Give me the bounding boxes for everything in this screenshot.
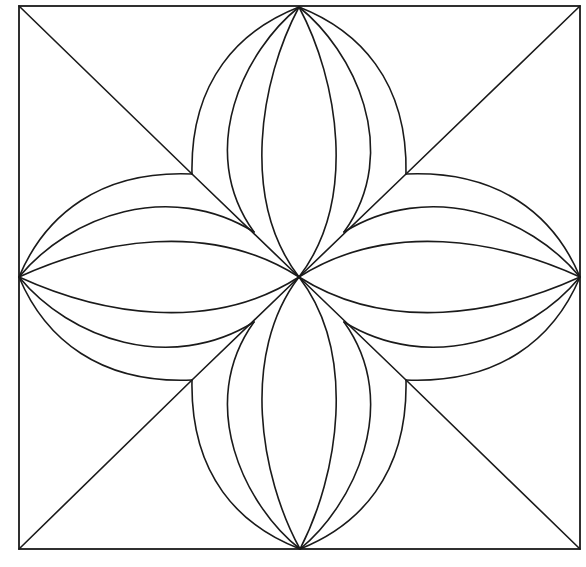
petal-top-inner-arc-right (299, 7, 336, 277)
petal-bottom-inner-arc-right (299, 277, 336, 549)
petal-bottom-outer-arc-left (192, 380, 300, 549)
petal-left-outer-arc-upper (19, 174, 192, 277)
petal-right-inner-arc-upper (299, 241, 580, 277)
petal-top-outer-arc-right (299, 7, 406, 174)
petal-left (19, 174, 299, 380)
diagonal-top-right (299, 6, 580, 277)
petal-right (299, 174, 580, 380)
petal-right-middle-arc-upper (344, 207, 580, 277)
rosette-svg (0, 0, 586, 567)
diagonal-bottom-right (299, 277, 580, 549)
diagonal-top-left (19, 6, 299, 277)
petal-bottom-middle-arc-right (300, 322, 371, 549)
petal-right-outer-arc-lower (406, 277, 580, 380)
petal-left-middle-arc-upper (19, 207, 254, 277)
petal-top-middle-arc-left (227, 7, 299, 232)
petal-top-middle-arc-right (299, 7, 371, 232)
petal-left-inner-arc-upper (19, 241, 299, 277)
petal-top-outer-arc-left (192, 7, 299, 174)
petal-top-inner-arc-left (262, 7, 299, 277)
petal-bottom-outer-arc-right (300, 380, 406, 549)
petal-left-middle-arc-lower (19, 277, 254, 347)
petal-right-inner-arc-lower (299, 277, 580, 313)
quilt-block-diagram (0, 0, 586, 567)
petal-top (192, 7, 406, 277)
petal-right-middle-arc-lower (344, 277, 580, 347)
petal-right-outer-arc-upper (406, 174, 580, 277)
petal-left-inner-arc-lower (19, 277, 299, 313)
petal-left-outer-arc-lower (19, 277, 192, 380)
petal-bottom-inner-arc-left (262, 277, 300, 549)
petal-bottom (192, 277, 406, 549)
diagonal-bottom-left (19, 277, 299, 549)
